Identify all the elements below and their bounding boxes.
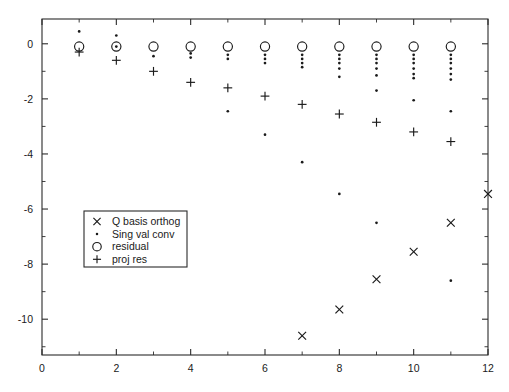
legend-label: residual — [112, 240, 149, 252]
y-tick-label: -10 — [18, 313, 33, 325]
data-point — [301, 53, 304, 56]
data-point — [449, 67, 452, 70]
legend-label: Q basis orthog — [112, 215, 180, 227]
data-point — [301, 62, 304, 65]
data-point — [338, 193, 341, 196]
data-point — [375, 221, 378, 224]
data-point — [375, 53, 378, 56]
data-point — [301, 58, 304, 61]
data-point — [301, 66, 304, 69]
data-point — [338, 75, 341, 78]
data-point — [412, 62, 415, 65]
data-point — [449, 62, 452, 65]
y-tick-label: -6 — [24, 203, 33, 215]
data-point — [226, 58, 229, 61]
data-point — [375, 67, 378, 70]
legend: Q basis orthogSing val convresidualproj … — [84, 211, 187, 267]
data-point — [264, 58, 267, 61]
data-point — [449, 53, 452, 56]
legend-label: proj res — [112, 253, 147, 265]
x-tick-label: 2 — [113, 362, 119, 374]
data-point — [338, 53, 341, 56]
data-point — [412, 77, 415, 80]
x-tick-label: 0 — [39, 362, 45, 374]
plot-canvas: 024681012 0-2-4-6-8-10 Q basis orthogSin… — [0, 0, 509, 392]
data-point — [115, 45, 118, 48]
data-point — [226, 110, 229, 113]
data-point — [152, 55, 155, 58]
data-point — [264, 133, 267, 136]
data-point — [449, 110, 452, 113]
data-point — [226, 53, 229, 56]
y-tick-label: 0 — [27, 38, 33, 50]
data-point — [412, 58, 415, 61]
data-point — [449, 78, 452, 81]
y-tick-label: -8 — [24, 258, 33, 270]
y-tick-label: -4 — [24, 148, 33, 160]
data-point — [412, 99, 415, 102]
x-tick-label: 4 — [188, 362, 194, 374]
data-point — [338, 62, 341, 65]
data-point — [449, 279, 452, 282]
data-point — [301, 161, 304, 164]
data-point — [78, 30, 81, 33]
x-tick-label: 12 — [482, 362, 494, 374]
data-point — [449, 58, 452, 61]
data-point — [264, 53, 267, 56]
data-point — [338, 67, 341, 70]
y-tick-label: -2 — [24, 93, 33, 105]
x-tick-label: 10 — [408, 362, 420, 374]
data-point — [412, 73, 415, 76]
data-point — [375, 58, 378, 61]
data-point — [412, 67, 415, 70]
data-point — [449, 73, 452, 76]
plot-background — [0, 0, 509, 392]
data-point — [189, 56, 192, 59]
data-point — [375, 74, 378, 77]
x-tick-label: 6 — [262, 362, 268, 374]
data-point — [412, 53, 415, 56]
x-tick-label: 8 — [336, 362, 342, 374]
legend-label: Sing val conv — [112, 228, 175, 240]
data-point — [264, 62, 267, 65]
data-point — [375, 89, 378, 92]
data-point — [338, 58, 341, 61]
scatter-plot-figure: 024681012 0-2-4-6-8-10 Q basis orthogSin… — [0, 0, 509, 392]
data-point — [375, 62, 378, 65]
legend-marker-dot — [96, 233, 98, 235]
data-point — [189, 52, 192, 55]
data-point — [115, 34, 118, 37]
